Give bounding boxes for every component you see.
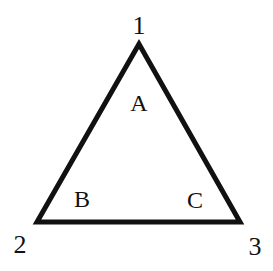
vertex-label-2: 2 (14, 230, 27, 259)
angle-label-a: A (130, 90, 148, 116)
triangle-shape (37, 44, 240, 222)
angle-label-b: B (74, 186, 90, 212)
diagram-svg: 1 2 3 A B C (0, 0, 273, 271)
vertex-label-1: 1 (133, 11, 146, 40)
angle-label-c: C (187, 187, 203, 213)
vertex-label-3: 3 (249, 232, 262, 261)
triangle-diagram: 1 2 3 A B C (0, 0, 273, 271)
